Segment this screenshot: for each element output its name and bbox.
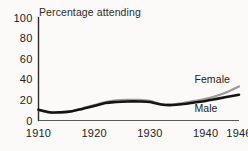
y-tick-label-40: 40 <box>20 73 33 85</box>
x-tick-label-1940: 1940 <box>193 127 218 139</box>
x-tick-label-1920: 1920 <box>82 127 107 139</box>
x-tick-label-1930: 1930 <box>137 127 162 139</box>
y-tick-label-80: 80 <box>20 32 33 44</box>
chart-title-group: Percentage attending <box>39 6 141 18</box>
series-label-female: Female <box>194 73 230 85</box>
percentage-attending-line-chart: Percentage attending 020406080100 191019… <box>0 0 248 151</box>
chart-title: Percentage attending <box>39 6 141 18</box>
x-tick-label-1910: 1910 <box>26 127 51 139</box>
y-tick-label-60: 60 <box>20 53 33 65</box>
y-tick-label-100: 100 <box>14 12 33 24</box>
series-label-male: Male <box>194 102 217 114</box>
y-tick-label-20: 20 <box>20 94 33 106</box>
x-tick-label-1946: 1946 <box>226 127 248 139</box>
chart-container: Percentage attending 020406080100 191019… <box>0 0 248 151</box>
y-tick-label-0: 0 <box>26 115 32 127</box>
